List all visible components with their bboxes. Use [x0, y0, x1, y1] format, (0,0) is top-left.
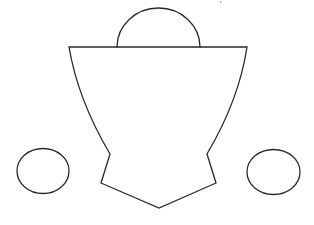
- diagram-svg: [0, 0, 314, 225]
- dome-semicircle: [117, 8, 200, 47]
- cup-body: [69, 47, 247, 208]
- diagram-canvas: [0, 0, 314, 225]
- left-oval: [17, 149, 69, 194]
- right-oval: [247, 150, 300, 195]
- stray-mark: [220, 1, 222, 3]
